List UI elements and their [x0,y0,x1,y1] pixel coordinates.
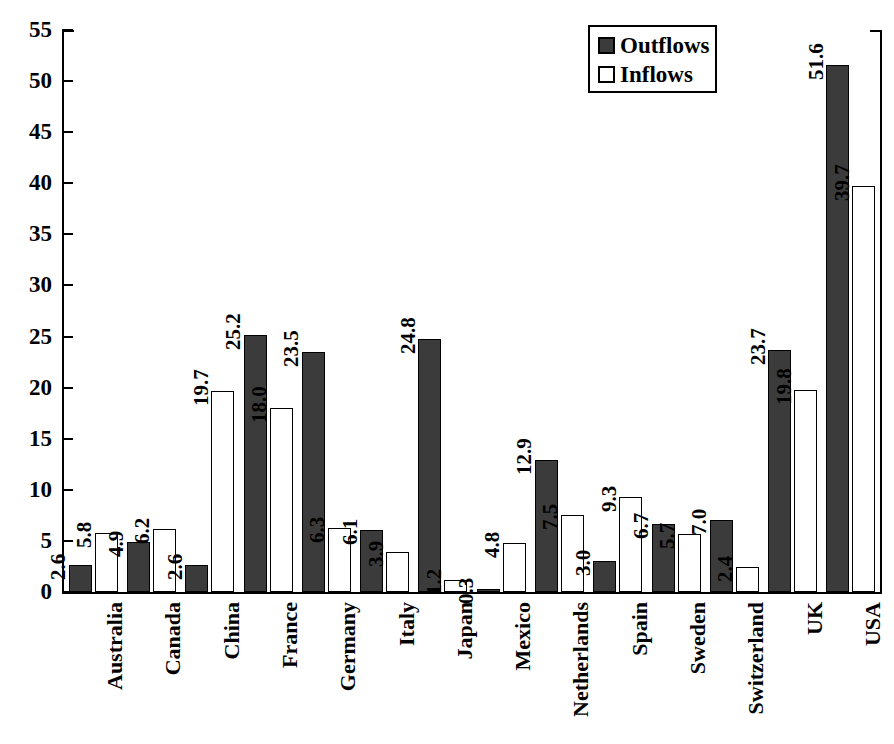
y-tick-mark [62,182,73,184]
bar-value-label: 18.0 [249,386,270,423]
y-tick-label: 5 [0,529,52,552]
bar-outflow [418,339,441,592]
y-tick-mark [62,336,73,338]
bar-value-label: 3.9 [366,541,387,567]
y-tick-mark [62,233,73,235]
bar-outflow [826,65,849,592]
legend-label-outflows: Outflows [620,34,709,57]
bar-value-label: 23.5 [281,330,302,367]
bar-chart: 0510152025303540455055 2.65.84.96.22.619… [0,0,894,744]
legend-item-inflows: Inflows [598,60,715,89]
bar-inflow [736,567,759,592]
bar-value-label: 19.7 [191,369,212,406]
bar-value-label: 24.8 [398,317,419,354]
bar-outflow [593,561,616,592]
bar-value-label: 7.5 [540,504,561,530]
bar-inflow [211,391,234,592]
category-label: France [279,602,301,668]
bar-outflow [69,565,92,592]
bar-inflow [794,390,817,592]
bar-outflow [185,565,208,592]
y-tick-mark [62,489,73,491]
y-tick-mark [62,438,73,440]
category-label: Italy [396,602,418,646]
bar-value-label: 19.8 [774,368,795,405]
bar-value-label: 6.3 [307,516,328,542]
bar-inflow [852,186,875,592]
category-label: China [221,602,243,659]
category-label: USA [862,602,884,646]
y-tick-label: 10 [0,478,52,501]
bar-value-label: 6.7 [631,512,652,538]
y-tick-label: 30 [0,273,52,296]
y-tick-label: 35 [0,222,52,245]
bar-value-label: 5.8 [74,521,95,547]
legend-label-inflows: Inflows [620,63,693,86]
bar-value-label: 9.3 [599,486,620,512]
bar-value-label: 2.6 [48,554,69,580]
y-axis-line [62,30,64,594]
y-tick-mark [62,284,73,286]
bar-value-label: 6.2 [132,517,153,543]
y-tick-label: 55 [0,18,52,41]
bar-value-label: 51.6 [806,43,827,80]
bar-value-label: 5.7 [657,523,678,549]
y-tick-mark [62,131,73,133]
bar-value-label: 2.6 [165,554,186,580]
category-label: Spain [629,602,651,656]
bar-outflow [302,352,325,592]
category-label: Switzerland [745,602,767,714]
y-tick-label: 45 [0,120,52,143]
y-tick-label: 50 [0,69,52,92]
y-tick-label: 15 [0,427,52,450]
category-label: Canada [162,602,184,675]
category-label: Germany [337,602,359,691]
bar-outflow [127,542,150,592]
category-label: Japan [454,602,476,659]
legend-swatch-inflows-icon [598,66,615,83]
bar-value-label: 0.3 [456,578,477,604]
y-tick-mark [62,387,73,389]
bar-inflow [503,543,526,592]
y-tick-label: 20 [0,376,52,399]
category-label: Mexico [512,602,534,670]
bar-outflow [244,335,267,592]
category-label: Netherlands [570,602,592,717]
legend-item-outflows: Outflows [598,31,715,60]
y-tick-label: 40 [0,171,52,194]
bar-value-label: 1.2 [424,568,445,594]
bar-inflow [270,408,293,592]
bar-outflow [477,589,500,592]
bar-value-label: 7.0 [689,509,710,535]
bar-inflow [678,534,701,592]
y-tick-label: 0 [0,580,52,603]
legend-swatch-outflows-icon [598,37,615,54]
bar-value-label: 25.2 [223,313,244,350]
y-tick-mark [62,80,73,82]
category-label: Australia [104,602,126,690]
bar-value-label: 2.4 [715,556,736,582]
bar-value-label: 23.7 [748,328,769,365]
bar-value-label: 6.1 [340,518,361,544]
bar-value-label: 39.7 [832,165,853,202]
bar-value-label: 4.8 [482,532,503,558]
y-tick-mark [62,29,73,31]
chart-legend: Outflows Inflows [588,25,717,93]
bar-inflow [386,552,409,592]
plot-right-edge [880,30,882,594]
category-label: Sweden [687,602,709,674]
bar-value-label: 4.9 [106,531,127,557]
bar-inflow [619,497,642,592]
plot-top-right-cap [870,30,882,32]
category-label: UK [804,602,826,635]
y-tick-label: 25 [0,325,52,348]
bar-value-label: 3.0 [573,550,594,576]
bar-value-label: 12.9 [514,438,535,475]
